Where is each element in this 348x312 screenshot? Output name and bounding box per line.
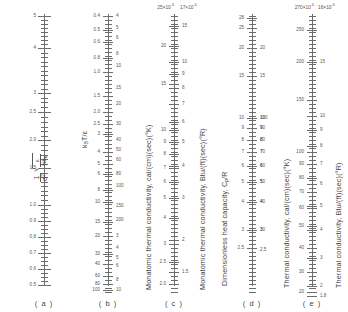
- axis-tick: [105, 272, 112, 273]
- axis-tick: [105, 116, 112, 117]
- axis-tick-label: 20: [260, 46, 265, 51]
- axis-tick: [309, 212, 316, 213]
- axis-tick: [249, 292, 256, 293]
- axis-tick: [41, 249, 48, 250]
- axis-tick: [105, 132, 112, 133]
- axis-tick: [309, 280, 316, 281]
- axis-tick-label: 50: [299, 224, 304, 229]
- axis-tick: [171, 36, 178, 37]
- panel-a-formula: 1 σ2 √ ε NkB: [2, 108, 36, 182]
- axis-tick: [41, 98, 48, 99]
- axis-tick: [309, 160, 316, 161]
- axis-tick: [249, 236, 256, 237]
- axis-tick: [249, 288, 256, 289]
- axis-tick-label: 60: [116, 158, 121, 163]
- axis-tick: [171, 56, 178, 57]
- axis-tick-label: 15: [161, 82, 166, 87]
- axis-tick: [249, 100, 256, 101]
- axis-tick: [249, 208, 256, 209]
- axis-tick: [171, 132, 178, 133]
- axis-tick: [171, 280, 178, 281]
- axis-tick: [309, 68, 316, 69]
- axis-tick-label: 4: [97, 150, 100, 155]
- axis-tick-label: 20: [239, 46, 244, 51]
- axis-tick: [249, 188, 256, 189]
- axis-tick: [41, 217, 48, 218]
- axis-tick: [249, 268, 256, 269]
- axis-tick: [249, 164, 256, 165]
- axis-tick: [169, 142, 179, 143]
- axis-tick: [41, 229, 48, 230]
- axis-tick-label: 30: [299, 270, 304, 275]
- axis-tick: [38, 48, 51, 49]
- axis-tick: [105, 164, 112, 165]
- axis-tick-label: 0.4: [94, 14, 100, 19]
- axis-tick: [105, 112, 112, 113]
- axis-tick: [105, 276, 112, 277]
- axis-tick: [309, 284, 316, 285]
- axis-tick: [249, 204, 256, 205]
- axis-tick: [171, 144, 178, 145]
- axis-tick-label: 200: [116, 218, 124, 223]
- axis-tick-label: 4: [182, 164, 185, 169]
- axis-tick: [41, 186, 48, 187]
- panel-c-header-right: 17×10-6: [180, 3, 197, 10]
- axis-tick: [105, 248, 112, 249]
- axis-tick-label: 3: [116, 234, 119, 239]
- axis-tick: [307, 286, 317, 287]
- axis-tick: [169, 166, 179, 167]
- axis-tick: [171, 256, 178, 257]
- axis-tick: [249, 180, 256, 181]
- axis-tick-label: 10: [239, 116, 244, 121]
- axis-tick-label: 200: [296, 60, 304, 65]
- axis-tick: [41, 225, 48, 226]
- axis-line-c: [174, 14, 175, 286]
- axis-tick-label: 3: [241, 228, 244, 233]
- axis-tick-label: 90: [299, 162, 304, 167]
- axis-tick: [41, 24, 48, 25]
- axis-tick: [249, 16, 256, 17]
- axis-tick-label: 150: [116, 204, 124, 209]
- axis-tick-label: 20: [299, 290, 304, 295]
- axis-tick: [171, 156, 178, 157]
- axis-tick: [171, 96, 178, 97]
- axis-tick: [307, 206, 317, 207]
- axis-tick: [309, 208, 316, 209]
- axis-tick: [249, 64, 256, 65]
- axis-tick: [171, 220, 178, 221]
- axis-tick: [249, 176, 256, 177]
- axis-tick: [171, 216, 178, 217]
- axis-tick: [309, 216, 316, 217]
- axis-tick: [41, 32, 48, 33]
- axis-tick: [105, 48, 112, 49]
- panel-b-caption: kBT/ε: [80, 131, 89, 148]
- axis-tick: [105, 260, 112, 261]
- axis-tick: [105, 84, 112, 85]
- axis-tick: [105, 284, 112, 285]
- axis-tick-label: 40: [95, 262, 100, 267]
- axis-tick: [41, 80, 48, 81]
- axis-tick-label: 3: [33, 91, 36, 96]
- axis-tick-label: 5: [182, 140, 185, 145]
- axis-tick-label: 25: [239, 26, 244, 31]
- axis-tick-label: 9: [241, 126, 244, 131]
- panel-letter-b: ( b ): [99, 299, 117, 308]
- axis-tick-label: 1.8: [320, 294, 326, 299]
- axis-tick: [249, 156, 256, 157]
- axis-tick: [249, 56, 256, 57]
- axis-tick: [249, 228, 256, 229]
- axis-tick: [105, 288, 112, 289]
- axis-tick: [309, 136, 316, 137]
- axis-tick-label: 2.5: [160, 260, 166, 265]
- axis-tick: [249, 24, 256, 25]
- axis-tick: [249, 44, 256, 45]
- axis-tick: [103, 190, 113, 191]
- axis-tick: [105, 140, 112, 141]
- axis-tick: [105, 268, 112, 269]
- axis-tick: [105, 128, 112, 129]
- axis-tick-label: 20: [95, 234, 100, 239]
- axis-tick: [309, 272, 316, 273]
- axis-tick-label: 5: [97, 162, 100, 167]
- axis-tick-label: 40: [299, 246, 304, 251]
- axis-tick: [41, 150, 48, 151]
